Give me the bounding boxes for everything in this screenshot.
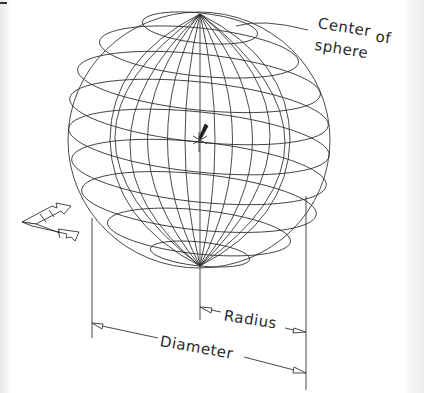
- extension-lines: [92, 196, 306, 390]
- center-marker: [193, 124, 208, 152]
- label-of: of: [374, 27, 392, 47]
- sphere-diagram: Center of sphere Radius: [0, 0, 424, 393]
- radius-dimension: Radius: [200, 306, 306, 333]
- diagram-canvas: Center of sphere Radius: [0, 0, 424, 393]
- ucs-axis-icon: [22, 203, 79, 241]
- label-sphere: sphere: [313, 36, 369, 62]
- center-of-sphere-label: Center of sphere: [313, 14, 393, 65]
- center-leader-line: [236, 23, 308, 30]
- radius-label: Radius: [223, 306, 278, 332]
- wireframe-sphere: [66, 7, 333, 271]
- diameter-label: Diameter: [159, 332, 235, 363]
